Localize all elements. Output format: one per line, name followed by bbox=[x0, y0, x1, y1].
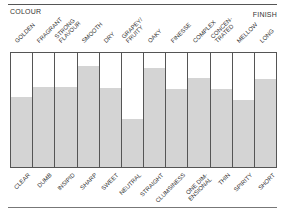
bottom-label: THIN bbox=[217, 172, 231, 186]
bottom-label: SHARP bbox=[79, 172, 98, 191]
chart-column bbox=[122, 53, 144, 167]
bar-fill bbox=[188, 78, 209, 167]
chart-column bbox=[255, 53, 276, 167]
bottom-label: SHORT bbox=[257, 172, 276, 191]
top-label: OAKY bbox=[147, 28, 163, 44]
bar-fill bbox=[255, 79, 276, 167]
top-label: DRY bbox=[103, 31, 116, 44]
bar-fill bbox=[233, 100, 254, 167]
bottom-label: ONE DIM- ENSIONAL bbox=[183, 172, 213, 202]
bottom-label: SWEET bbox=[101, 172, 120, 191]
chart-column bbox=[55, 53, 77, 167]
bar-fill bbox=[144, 68, 165, 167]
top-label: MELLOW bbox=[236, 21, 259, 44]
chart-column bbox=[188, 53, 210, 167]
chart-column bbox=[11, 53, 33, 167]
bottom-label: INSIPID bbox=[56, 172, 76, 192]
bar-fill bbox=[122, 119, 143, 167]
top-label: SMOOTH bbox=[80, 21, 103, 44]
colour-heading: COLOUR bbox=[10, 8, 41, 15]
chart-column bbox=[78, 53, 100, 167]
bottom-label: SPIRITY bbox=[233, 172, 254, 193]
top-label: GOLDEN bbox=[14, 22, 36, 44]
bar-fill bbox=[78, 66, 99, 167]
top-label: FINESSE bbox=[169, 22, 191, 44]
tasting-profile-chart bbox=[10, 52, 277, 168]
bar-fill bbox=[11, 97, 32, 167]
bottom-rule bbox=[8, 207, 277, 208]
bottom-label: CLEAR bbox=[13, 172, 31, 190]
chart-column bbox=[211, 53, 233, 167]
chart-column bbox=[233, 53, 255, 167]
chart-column bbox=[33, 53, 55, 167]
bar-fill bbox=[100, 88, 121, 167]
top-label: GRAPEY/ FRUITY bbox=[121, 17, 148, 44]
bar-fill bbox=[211, 89, 232, 167]
bottom-label: DUMB bbox=[36, 172, 53, 189]
chart-column bbox=[166, 53, 188, 167]
chart-column bbox=[100, 53, 122, 167]
bar-fill bbox=[33, 87, 54, 167]
bar-fill bbox=[55, 87, 76, 167]
bar-fill bbox=[166, 89, 187, 167]
chart-column bbox=[144, 53, 166, 167]
top-rule bbox=[8, 4, 277, 5]
finish-heading: FINISH bbox=[253, 11, 277, 18]
top-label: LONG bbox=[258, 28, 274, 44]
